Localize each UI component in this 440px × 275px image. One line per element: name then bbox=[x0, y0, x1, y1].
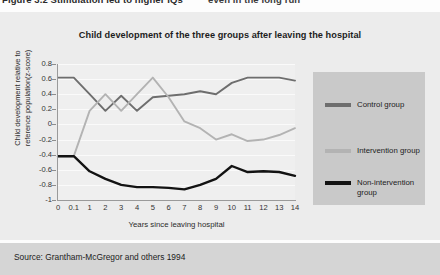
y-tick-mark bbox=[52, 94, 56, 95]
figure-caption-main: Figure 3.2 Stimulation led to higher IQs bbox=[2, 0, 183, 5]
y-tick-label: 0.2 bbox=[6, 105, 52, 113]
y-axis-ticks: 0.80.60.40.20-0.2-0.4-0.6-0.8-1 bbox=[0, 64, 52, 201]
chart-legend: Control groupIntervention groupNon-inter… bbox=[313, 72, 425, 205]
x-tick-label: 1 bbox=[87, 203, 91, 212]
x-axis-ticks: 00.11234567891011121314 bbox=[58, 203, 296, 217]
x-tick-label: 3 bbox=[119, 203, 123, 212]
x-tick-label: 11 bbox=[244, 203, 252, 212]
x-tick-label: 10 bbox=[228, 203, 236, 212]
y-tick-mark bbox=[52, 155, 56, 156]
legend-swatch-icon bbox=[325, 181, 351, 185]
y-tick-label: -0.6 bbox=[6, 166, 52, 174]
x-axis-line bbox=[57, 200, 296, 201]
source-text: Source: Grantham-McGregor and others 199… bbox=[14, 252, 185, 262]
legend-swatch-icon bbox=[325, 103, 351, 107]
x-tick-label: 2 bbox=[103, 203, 107, 212]
figure-caption: Figure 3.2 Stimulation led to higher IQs… bbox=[0, 0, 440, 8]
figure-root: Figure 3.2 Stimulation led to higher IQs… bbox=[0, 0, 440, 275]
y-tick-label: -0.2 bbox=[6, 136, 52, 144]
y-tick-label: 0.6 bbox=[6, 75, 52, 83]
y-tick-label: -0.4 bbox=[6, 151, 52, 159]
y-tick-label: 0 bbox=[6, 120, 52, 128]
legend-control-group[interactable]: Control group bbox=[325, 100, 425, 110]
y-tick-mark bbox=[52, 170, 56, 171]
chart-title: Child development of the three groups af… bbox=[0, 30, 440, 40]
y-tick-mark bbox=[52, 109, 56, 110]
legend-intervention-group[interactable]: Intervention group bbox=[325, 146, 425, 156]
y-tick-label: -1 bbox=[6, 196, 52, 204]
x-tick-label: 7 bbox=[182, 203, 186, 212]
x-tick-label: 5 bbox=[151, 203, 155, 212]
series-line-intervention-group bbox=[58, 78, 295, 157]
legend-label: Control group bbox=[357, 100, 404, 110]
y-tick-label: -0.8 bbox=[6, 181, 52, 189]
legend-label: Non-intervention group bbox=[357, 178, 425, 197]
series-lines bbox=[58, 64, 295, 200]
y-tick-mark bbox=[52, 185, 56, 186]
y-tick-mark bbox=[52, 79, 56, 80]
legend-swatch-icon bbox=[325, 149, 351, 153]
x-tick-label: 0.1 bbox=[69, 203, 80, 212]
x-tick-label: 0 bbox=[56, 203, 60, 212]
figure-caption-sub: even in the long run bbox=[208, 0, 300, 5]
legend-non-intervention-group[interactable]: Non-intervention group bbox=[325, 178, 425, 197]
y-tick-mark bbox=[52, 124, 56, 125]
y-tick-mark bbox=[52, 140, 56, 141]
legend-label: Intervention group bbox=[357, 146, 420, 156]
x-tick-label: 8 bbox=[198, 203, 202, 212]
x-tick-label: 14 bbox=[291, 203, 299, 212]
series-line-non-intervention-group bbox=[58, 156, 295, 189]
x-tick-label: 13 bbox=[275, 203, 283, 212]
y-tick-label: 0.4 bbox=[6, 90, 52, 98]
y-tick-label: 0.8 bbox=[6, 60, 52, 68]
x-tick-label: 9 bbox=[214, 203, 218, 212]
x-tick-label: 12 bbox=[259, 203, 267, 212]
x-tick-label: 6 bbox=[166, 203, 170, 212]
x-axis-title: Years since leaving hospital bbox=[58, 220, 295, 229]
y-tick-mark bbox=[52, 64, 56, 65]
source-bar: Source: Grantham-McGregor and others 199… bbox=[0, 243, 440, 275]
y-axis-line bbox=[57, 64, 58, 201]
plot-area bbox=[58, 64, 295, 200]
y-tick-mark bbox=[52, 200, 56, 201]
x-tick-label: 4 bbox=[135, 203, 139, 212]
